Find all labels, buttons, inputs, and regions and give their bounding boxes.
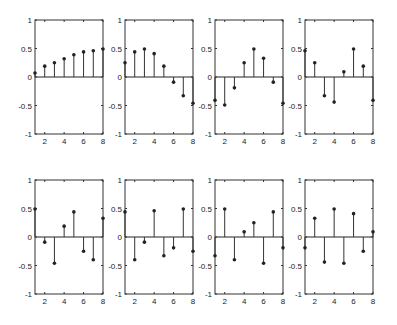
y-tick-label: -0.5 (108, 262, 122, 271)
stem-marker (271, 210, 275, 214)
y-tick-label: 0.5 (21, 205, 33, 214)
y-tick-label: 1 (118, 176, 123, 185)
stem-marker (281, 101, 285, 105)
stem-marker (172, 80, 176, 84)
subplot-6: -1-0.500.512468 (108, 176, 196, 306)
x-tick-label: 8 (371, 297, 376, 306)
y-tick-label: 0.5 (201, 45, 213, 54)
y-tick-label: -1 (25, 290, 33, 299)
subplot-1: -1-0.500.512468 (18, 16, 106, 146)
stem-marker (82, 50, 86, 54)
x-tick-label: 2 (42, 137, 47, 146)
stem-marker (62, 57, 66, 61)
stem-marker (91, 258, 95, 262)
stem-plot-figure: -1-0.500.512468-1-0.500.512468-1-0.500.5… (0, 0, 397, 325)
subplot-7: -1-0.500.512468 (198, 176, 286, 306)
stem-marker (252, 221, 256, 225)
stem-marker (191, 249, 195, 253)
y-tick-label: 0.5 (201, 205, 213, 214)
stem-marker (123, 210, 127, 214)
y-tick-label: -0.5 (108, 102, 122, 111)
x-tick-label: 4 (242, 297, 247, 306)
x-tick-label: 8 (281, 297, 286, 306)
x-tick-label: 2 (132, 297, 137, 306)
stem-marker (271, 80, 275, 84)
x-tick-label: 6 (351, 297, 356, 306)
x-tick-label: 6 (171, 137, 176, 146)
stem-marker (53, 61, 57, 65)
stem-marker (213, 99, 217, 103)
stem-marker (43, 64, 47, 68)
stem-marker (371, 99, 375, 103)
y-tick-label: 0.5 (291, 45, 303, 54)
y-tick-label: -0.5 (198, 102, 212, 111)
stem-marker (172, 246, 176, 250)
y-tick-label: 1 (298, 176, 303, 185)
stem-marker (361, 64, 365, 68)
y-tick-label: 1 (208, 16, 213, 25)
stem-marker (101, 47, 105, 51)
stem-marker (352, 47, 356, 51)
subplot-3: -1-0.500.512468 (198, 16, 286, 146)
stem-marker (342, 261, 346, 265)
x-tick-label: 6 (261, 297, 266, 306)
stem-marker (332, 100, 336, 104)
stem-marker (143, 47, 147, 51)
stem-marker (91, 49, 95, 53)
stem-marker (242, 61, 246, 65)
stem-marker (233, 258, 237, 262)
stem-marker (72, 53, 76, 57)
stem-marker (303, 246, 307, 250)
x-tick-label: 6 (81, 137, 86, 146)
x-tick-label: 4 (332, 297, 337, 306)
y-tick-label: 0.5 (291, 205, 303, 214)
x-tick-label: 2 (222, 297, 227, 306)
subplot-4: -1-0.500.512468 (288, 16, 376, 146)
stem-marker (242, 230, 246, 234)
y-tick-label: 0.5 (111, 45, 123, 54)
stem-marker (262, 261, 266, 265)
x-tick-label: 4 (152, 137, 157, 146)
stem-marker (181, 94, 185, 98)
stem-marker (123, 61, 127, 65)
y-tick-label: 1 (298, 16, 303, 25)
y-tick-label: -0.5 (18, 102, 32, 111)
x-tick-label: 2 (312, 297, 317, 306)
y-tick-label: 0 (298, 233, 303, 242)
x-tick-label: 4 (62, 137, 67, 146)
stem-marker (323, 94, 327, 98)
stem-marker (323, 260, 327, 264)
subplot-5: -1-0.500.512468 (18, 176, 106, 306)
stem-marker (342, 70, 346, 74)
y-tick-label: -1 (205, 130, 213, 139)
x-tick-label: 4 (332, 137, 337, 146)
y-tick-label: 0.5 (111, 205, 123, 214)
x-tick-label: 8 (191, 297, 196, 306)
subplot-2: -1-0.500.512468 (108, 16, 196, 146)
stem-marker (152, 52, 156, 56)
stem-marker (33, 207, 37, 211)
y-tick-label: -1 (25, 130, 33, 139)
stem-marker (133, 258, 137, 262)
y-tick-label: -1 (295, 290, 303, 299)
subplot-8: -1-0.500.512468 (288, 176, 376, 306)
y-tick-label: -1 (205, 290, 213, 299)
stem-marker (213, 254, 217, 258)
stem-marker (361, 249, 365, 253)
stem-marker (313, 216, 317, 220)
stem-marker (62, 224, 66, 228)
stem-marker (262, 56, 266, 60)
x-tick-label: 2 (222, 137, 227, 146)
x-tick-label: 2 (42, 297, 47, 306)
y-tick-label: -0.5 (18, 262, 32, 271)
stem-marker (233, 86, 237, 90)
y-tick-label: 1 (118, 16, 123, 25)
x-tick-label: 4 (152, 297, 157, 306)
stem-marker (223, 103, 227, 107)
y-tick-label: 0 (208, 233, 213, 242)
y-tick-label: -1 (295, 130, 303, 139)
stem-marker (223, 207, 227, 211)
stem-marker (53, 261, 57, 265)
y-tick-label: 0 (208, 73, 213, 82)
stem-marker (252, 47, 256, 51)
